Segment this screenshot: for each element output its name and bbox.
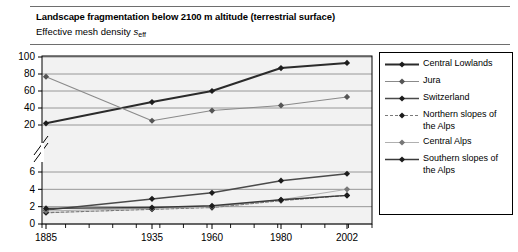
svg-text:4: 4 <box>29 184 35 195</box>
legend-item[interactable]: Central Lowlands <box>380 58 512 71</box>
legend-item-label: Switzerland <box>420 92 470 104</box>
legend-item[interactable]: Jura <box>380 75 512 88</box>
svg-text:0: 0 <box>29 218 35 229</box>
legend-item[interactable]: Switzerland <box>380 92 512 105</box>
legend-item-label: Central Alps <box>420 136 472 148</box>
chart-page: Landscape fragmentation below 2100 m alt… <box>0 0 518 252</box>
legend-item-label: Jura <box>420 75 441 87</box>
svg-text:6: 6 <box>29 166 35 177</box>
legend-item[interactable]: Northern slopes of the Alps <box>380 109 512 132</box>
legend-item-label: Southern slopes of the Alps <box>420 153 511 176</box>
legend-swatch-icon <box>384 92 420 105</box>
legend-swatch-icon <box>384 136 420 149</box>
chart-legend: Central Lowlands Jura Switzerland Northe… <box>379 52 513 215</box>
svg-text:80: 80 <box>24 68 36 79</box>
svg-text:100: 100 <box>18 51 35 62</box>
legend-item[interactable]: Southern slopes of the Alps <box>380 153 512 176</box>
legend-swatch-icon <box>384 153 420 166</box>
svg-text:60: 60 <box>24 85 36 96</box>
svg-text:20: 20 <box>24 119 36 130</box>
legend-swatch-icon <box>384 109 420 122</box>
svg-text:40: 40 <box>24 102 36 113</box>
svg-text:2: 2 <box>29 201 35 212</box>
legend-item-label: Central Lowlands <box>420 58 493 70</box>
svg-text:1960: 1960 <box>201 232 224 243</box>
svg-text:1885: 1885 <box>35 232 58 243</box>
svg-text:1935: 1935 <box>141 232 164 243</box>
legend-item-label: Northern slopes of the Alps <box>420 109 511 132</box>
legend-swatch-icon <box>384 58 420 71</box>
legend-swatch-icon <box>384 75 420 88</box>
legend-item[interactable]: Central Alps <box>380 136 512 149</box>
svg-text:2002: 2002 <box>336 232 359 243</box>
svg-text:1980: 1980 <box>270 232 293 243</box>
gridlines-group <box>42 56 372 224</box>
